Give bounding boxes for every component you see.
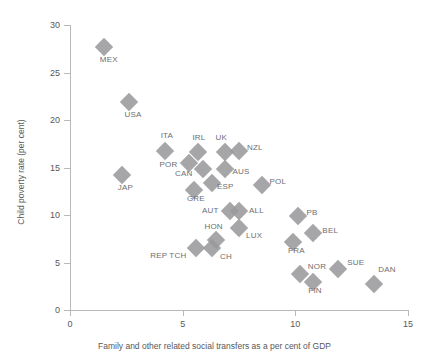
x-tick-label: 0 [67,319,72,329]
y-tick-label: 10 [36,210,60,220]
data-point-label: BEL [322,226,338,235]
data-point [113,166,131,184]
data-point [304,224,322,242]
y-axis-title: Child poverty rate (per cent) [16,72,26,272]
data-point-label: ESP [217,182,234,191]
data-point-label: ITA [161,131,173,140]
x-tick-label: 15 [403,319,413,329]
data-point-label: FRA [288,246,305,255]
x-tick-mark [183,310,184,316]
data-point-label: ALL [249,206,264,215]
data-point-label: NZL [247,143,263,152]
data-point [252,175,270,193]
data-point-label: LUX [246,231,262,240]
data-point-label: FIN [308,286,322,295]
x-tick-mark [408,310,409,316]
y-tick-label: 5 [36,258,60,268]
y-tick-mark [64,215,70,216]
data-point-label: PB [307,208,318,217]
data-point-label: DAN [378,265,396,274]
x-tick-mark [70,310,71,316]
scatter-chart: 051015 051015202530 MEXUSAJAPITAPORIRLCA… [0,0,429,362]
y-tick-label: 20 [36,115,60,125]
y-tick-label: 30 [36,20,60,30]
data-point-label: AUT [202,206,219,215]
x-axis-line [70,310,408,311]
data-point-label: POR [159,160,177,169]
data-point [95,38,113,56]
data-point-label: SUE [347,258,364,267]
x-axis-title: Family and other related social transfer… [0,341,429,351]
data-point-label: HON [204,222,222,231]
y-tick-mark [64,25,70,26]
y-tick-label: 0 [36,305,60,315]
y-tick-label: 15 [36,163,60,173]
y-axis-line [70,25,71,310]
data-point-label: CAN [175,169,193,178]
x-tick-mark [295,310,296,316]
data-point [329,260,347,278]
data-point-label: GRE [187,194,205,203]
data-point [230,142,248,160]
y-tick-mark [64,168,70,169]
data-point [365,275,383,293]
x-tick-label: 10 [290,319,300,329]
y-tick-mark [64,120,70,121]
data-point-label: CH [220,252,232,261]
y-tick-label: 25 [36,68,60,78]
data-point-label: NOR [308,262,326,271]
data-point-label: MEX [100,55,118,64]
data-point [155,142,173,160]
data-point-label: REP TCH [150,251,186,260]
y-tick-mark [64,310,70,311]
data-point [119,93,137,111]
data-point-label: JAP [118,183,133,192]
data-point-label: UK [215,133,227,142]
data-point [288,207,306,225]
data-point-label: POL [270,177,287,186]
x-tick-label: 5 [180,319,185,329]
y-tick-mark [64,263,70,264]
data-point-label: AUS [232,167,249,176]
data-point-label: IRL [192,133,205,142]
y-tick-mark [64,73,70,74]
data-point-label: USA [125,110,142,119]
